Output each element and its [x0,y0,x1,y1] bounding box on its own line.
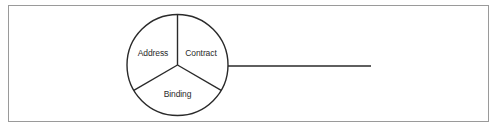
endpoint-diagram: Address Contract Binding [0,0,497,128]
segment-label-contract: Contract [185,48,217,58]
segment-label-binding: Binding [164,89,192,99]
segment-label-address: Address [138,48,168,58]
endpoint-circle-group: Address Contract Binding [127,15,228,116]
